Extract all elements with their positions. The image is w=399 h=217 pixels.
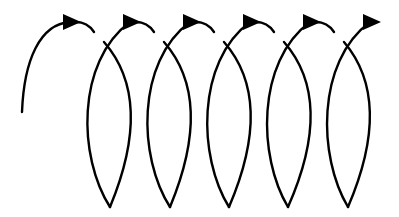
arrowhead-icon — [363, 14, 381, 30]
arrowhead-icon — [63, 14, 81, 30]
loop-back-strand — [104, 42, 131, 207]
loop-back-strand — [164, 42, 191, 207]
lead-in-curve — [22, 22, 70, 112]
arrow-tail-curve — [76, 22, 94, 32]
helix-loops — [22, 22, 370, 207]
arrowhead-icon — [183, 14, 201, 30]
arrow-tail-curve — [316, 22, 334, 32]
loop-front-strand — [147, 22, 190, 207]
loop-front-strand — [327, 22, 370, 207]
loop-back-strand — [344, 42, 370, 207]
loop-front-strand — [207, 22, 250, 207]
arrow-tail-curve — [136, 22, 154, 32]
loop-back-strand — [224, 42, 251, 207]
arrowhead-icon — [303, 14, 321, 30]
arrowheads — [63, 14, 381, 30]
arrowhead-icon — [123, 14, 141, 30]
loop-back-strand — [284, 42, 311, 207]
arrowhead-icon — [243, 14, 261, 30]
loop-front-strand — [87, 22, 130, 207]
helix-diagram — [0, 0, 399, 217]
loop-front-strand — [267, 22, 310, 207]
arrow-tail-curve — [196, 22, 214, 32]
arrow-tail-curve — [256, 22, 274, 32]
